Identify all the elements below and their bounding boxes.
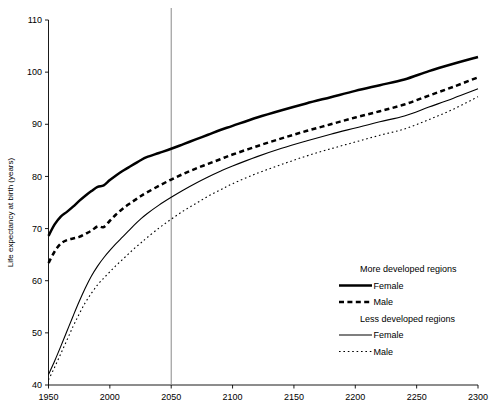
- y-tick-label: 100: [27, 67, 42, 77]
- y-tick-label: 90: [32, 119, 42, 129]
- y-tick-label: 70: [32, 224, 42, 234]
- x-tick-label: 2200: [345, 392, 365, 402]
- y-axis-title: Life expectancy at birth (years): [6, 157, 15, 267]
- x-tick-label: 1950: [38, 392, 58, 402]
- y-tick-label: 60: [32, 276, 42, 286]
- life-expectancy-chart: 4050607080901001101950200020502100215022…: [0, 0, 496, 416]
- chart-canvas: 4050607080901001101950200020502100215022…: [0, 0, 496, 416]
- series-line-more-developed-regions-male: [49, 77, 479, 263]
- x-tick-label: 2050: [161, 392, 181, 402]
- y-tick-label: 40: [32, 380, 42, 390]
- x-tick-label: 2300: [468, 392, 488, 402]
- axis-title-layer: Life expectancy at birth (years): [6, 157, 15, 267]
- y-tick-label: 80: [32, 172, 42, 182]
- legend-entry-label: Female: [374, 281, 404, 291]
- legend-entry-label: Male: [374, 347, 394, 357]
- legend-entry-label: Male: [374, 297, 394, 307]
- x-tick-label: 2150: [284, 392, 304, 402]
- series-layer: [49, 57, 479, 380]
- legend-group-heading: More developed regions: [360, 264, 457, 274]
- series-line-less-developed-regions-female: [49, 89, 479, 375]
- x-tick-label: 2000: [100, 392, 120, 402]
- y-tick-label: 110: [28, 15, 42, 25]
- series-line-more-developed-regions-female: [49, 57, 479, 236]
- tick-label-layer: 4050607080901001101950200020502100215022…: [27, 15, 488, 401]
- legend-layer: More developed regionsFemaleMaleLess dev…: [339, 264, 457, 357]
- y-tick-label: 50: [32, 328, 42, 338]
- series-line-less-developed-regions-male: [49, 97, 479, 380]
- axes-layer: [45, 20, 478, 389]
- x-tick-label: 2250: [407, 392, 427, 402]
- x-tick-label: 2100: [223, 392, 243, 402]
- legend-entry-label: Female: [374, 330, 404, 340]
- legend-group-heading: Less developed regions: [360, 314, 456, 324]
